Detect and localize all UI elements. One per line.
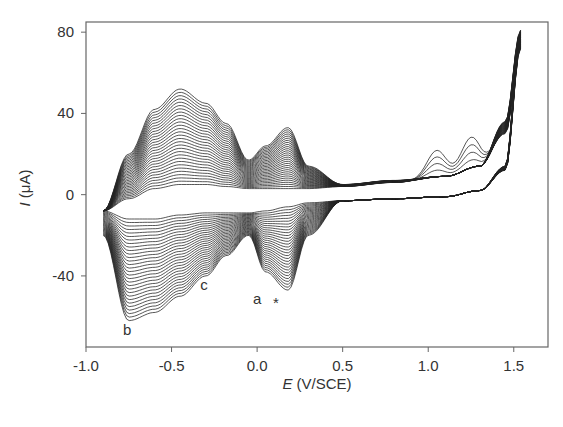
y-tick-label: 40 <box>57 104 74 121</box>
peak-annotations: bca* <box>123 276 279 338</box>
x-tick-label: 1.0 <box>418 357 439 374</box>
y-axis-label: I (μA) <box>16 170 33 207</box>
x-tick-label: 0.5 <box>332 357 353 374</box>
y-axis-ticks: 80400-40 <box>52 23 86 284</box>
x-tick-label: -0.5 <box>159 357 185 374</box>
peak-label: * <box>273 294 279 311</box>
y-tick-label: -40 <box>52 267 74 284</box>
cv-cycle <box>103 39 520 272</box>
x-tick-label: 1.5 <box>503 357 524 374</box>
cv-cycle <box>103 48 520 223</box>
y-tick-label: 80 <box>57 23 74 40</box>
y-tick-label: 0 <box>66 186 74 203</box>
peak-label: b <box>123 321 131 338</box>
peak-label: a <box>253 290 262 307</box>
cv-cycle <box>103 45 520 236</box>
cv-cycle <box>103 42 520 258</box>
x-tick-label: 0.0 <box>247 357 268 374</box>
cv-chart: 80400-40 -1.0-0.50.00.51.01.5 E (V/SCE) … <box>0 0 563 427</box>
cv-cycle <box>103 37 520 282</box>
x-axis-ticks: -1.0-0.50.00.51.01.5 <box>73 347 524 374</box>
peak-label: c <box>200 276 208 293</box>
cv-cycle <box>103 38 520 275</box>
cv-curves <box>103 30 520 321</box>
cv-cycle <box>103 47 520 230</box>
x-tick-label: -1.0 <box>73 357 99 374</box>
x-axis-label: E (V/SCE) <box>282 375 351 392</box>
